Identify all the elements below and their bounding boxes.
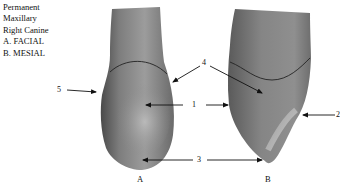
label-4: 4 (202, 59, 206, 67)
label-2: 2 (336, 111, 340, 119)
tooth-b-mesial (228, 9, 311, 163)
label-5: 5 (57, 86, 61, 94)
tooth-a-facial (101, 7, 174, 170)
view-label-b: B (265, 174, 271, 184)
label-3: 3 (197, 156, 201, 164)
label-1: 1 (192, 101, 196, 109)
view-label-a: A (137, 174, 143, 184)
